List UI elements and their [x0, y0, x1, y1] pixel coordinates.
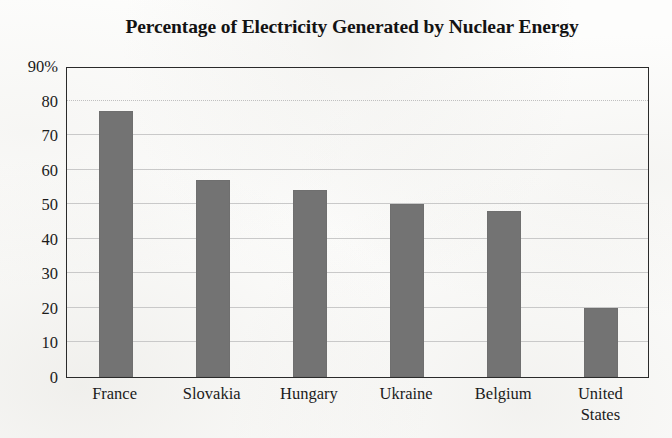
x-tick-label-line: France: [66, 383, 163, 404]
x-tick-label: Belgium: [455, 383, 552, 404]
x-tick-label: UnitedStates: [552, 383, 649, 425]
x-tick-label: Hungary: [260, 383, 357, 404]
y-tick-label-40: 40: [0, 230, 62, 250]
y-tick-label-0: 0: [0, 368, 62, 388]
y-axis-tick-labels: 0102030405060708090%: [0, 67, 62, 378]
x-tick-label-line: Belgium: [455, 383, 552, 404]
bars-layer: [67, 68, 648, 377]
y-tick-label-80: 80: [0, 92, 62, 112]
x-tick-label: Ukraine: [358, 383, 455, 404]
y-tick-label-30: 30: [0, 264, 62, 284]
chart-title: Percentage of Electricity Generated by N…: [50, 16, 654, 38]
y-tick-label-10: 10: [0, 333, 62, 353]
x-tick-label-line: States: [552, 404, 649, 425]
bar: [293, 190, 327, 377]
x-tick-label: Slovakia: [163, 383, 260, 404]
x-tick-label: France: [66, 383, 163, 404]
plot-area: [66, 67, 649, 378]
bar: [196, 180, 230, 377]
y-tick-label-50: 50: [0, 195, 62, 215]
x-tick-label-line: Ukraine: [358, 383, 455, 404]
x-tick-label-line: Hungary: [260, 383, 357, 404]
y-tick-label-20: 20: [0, 299, 62, 319]
bar: [584, 308, 618, 377]
y-tick-label-90: 90%: [0, 57, 62, 77]
bar: [99, 111, 133, 377]
bar-chart-figure: Percentage of Electricity Generated by N…: [0, 0, 672, 438]
bar: [390, 204, 424, 377]
bar: [487, 211, 521, 377]
y-tick-label-60: 60: [0, 161, 62, 181]
y-tick-label-70: 70: [0, 126, 62, 146]
x-axis-tick-labels: FranceSlovakiaHungaryUkraineBelgiumUnite…: [66, 383, 649, 435]
x-tick-label-line: United: [552, 383, 649, 404]
x-tick-label-line: Slovakia: [163, 383, 260, 404]
